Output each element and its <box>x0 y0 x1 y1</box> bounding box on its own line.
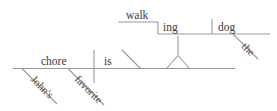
label-ing: ing <box>163 21 178 34</box>
label-johns: John's <box>29 73 57 101</box>
label-favorite: favorite <box>73 73 106 106</box>
gerund-pedestal-right <box>178 56 190 69</box>
label-chore: chore <box>41 55 67 67</box>
label-is: is <box>104 55 112 67</box>
diagram-svg: walk ing dog the chore is John's favorit… <box>0 0 277 111</box>
gerund-pedestal-left <box>167 56 179 69</box>
sentence-diagram-canvas: walk ing dog the chore is John's favorit… <box>0 0 277 111</box>
predicate-complement-diagonal <box>122 50 141 69</box>
label-dog: dog <box>218 21 236 34</box>
label-walk: walk <box>126 9 149 21</box>
